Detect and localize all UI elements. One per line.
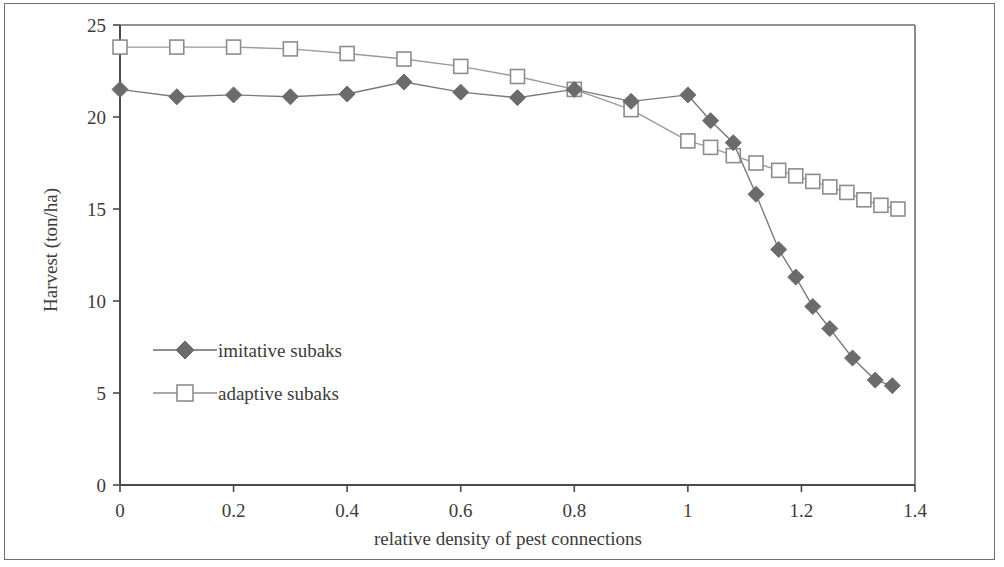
data-point-marker bbox=[749, 156, 763, 170]
series-line bbox=[120, 47, 898, 209]
data-point-marker bbox=[510, 90, 526, 106]
y-axis-tick-labels: 0510152025 bbox=[87, 15, 106, 496]
data-point-marker bbox=[771, 241, 787, 257]
x-tick-label: 1 bbox=[683, 500, 693, 521]
data-point-marker bbox=[681, 134, 695, 148]
data-point-marker bbox=[113, 40, 127, 54]
data-point-marker bbox=[772, 163, 786, 177]
harvest-vs-pest-density-chart: 0510152025 00.20.40.60.811.21.4 relative… bbox=[0, 0, 1004, 567]
x-tick-label: 1.2 bbox=[790, 500, 814, 521]
legend-label-imitative: imitative subaks bbox=[218, 340, 342, 361]
y-tick-label: 5 bbox=[97, 383, 107, 404]
data-point-marker bbox=[748, 186, 764, 202]
y-tick-label: 15 bbox=[87, 199, 106, 220]
y-axis-title: Harvest (ton/ha) bbox=[40, 188, 62, 312]
data-point-marker bbox=[397, 52, 411, 66]
data-point-marker bbox=[704, 140, 718, 154]
x-axis-title: relative density of pest connections bbox=[374, 528, 642, 549]
legend-label-adaptive: adaptive subaks bbox=[218, 383, 339, 404]
filled-diamond-icon bbox=[153, 341, 217, 359]
x-tick-label: 0.8 bbox=[562, 500, 586, 521]
data-point-marker bbox=[170, 40, 184, 54]
x-axis-tick-labels: 00.20.40.60.811.21.4 bbox=[115, 500, 927, 521]
data-point-marker bbox=[339, 86, 355, 102]
open-square-icon bbox=[153, 385, 217, 401]
data-point-marker bbox=[874, 198, 888, 212]
data-point-marker bbox=[112, 81, 128, 97]
data-point-marker bbox=[396, 74, 412, 90]
data-point-marker bbox=[169, 89, 185, 105]
data-point-marker bbox=[283, 42, 297, 56]
x-tick-label: 0.2 bbox=[222, 500, 246, 521]
x-tick-label: 0.6 bbox=[449, 500, 473, 521]
data-point-marker bbox=[806, 174, 820, 188]
x-tick-label: 0.4 bbox=[335, 500, 359, 521]
y-tick-label: 0 bbox=[97, 475, 107, 496]
data-point-marker bbox=[788, 269, 804, 285]
y-tick-label: 10 bbox=[87, 291, 106, 312]
data-point-marker bbox=[282, 89, 298, 105]
data-point-marker bbox=[823, 180, 837, 194]
data-point-marker bbox=[453, 84, 469, 100]
y-tick-label: 25 bbox=[87, 15, 106, 36]
data-point-marker bbox=[857, 193, 871, 207]
x-tick-label: 1.4 bbox=[903, 500, 927, 521]
legend-entry-adaptive: adaptive subaks bbox=[153, 383, 339, 404]
x-axis-ticks bbox=[120, 485, 915, 492]
data-point-marker bbox=[891, 202, 905, 216]
data-point-marker bbox=[340, 47, 354, 61]
figure-container: 0510152025 00.20.40.60.811.21.4 relative… bbox=[0, 0, 1004, 567]
x-tick-label: 0 bbox=[115, 500, 125, 521]
data-point-marker bbox=[822, 321, 838, 337]
legend-entry-imitative: imitative subaks bbox=[153, 340, 342, 361]
data-point-marker bbox=[884, 378, 900, 394]
data-point-marker bbox=[227, 40, 241, 54]
y-tick-label: 20 bbox=[87, 107, 106, 128]
data-point-marker bbox=[454, 59, 468, 73]
data-point-marker bbox=[226, 87, 242, 103]
data-point-marker bbox=[805, 299, 821, 315]
data-point-marker bbox=[840, 185, 854, 199]
chart-legend: imitative subaks adaptive subaks bbox=[153, 340, 342, 404]
data-point-marker bbox=[789, 169, 803, 183]
series-adaptive-subaks bbox=[113, 40, 905, 216]
data-point-marker bbox=[511, 70, 525, 84]
